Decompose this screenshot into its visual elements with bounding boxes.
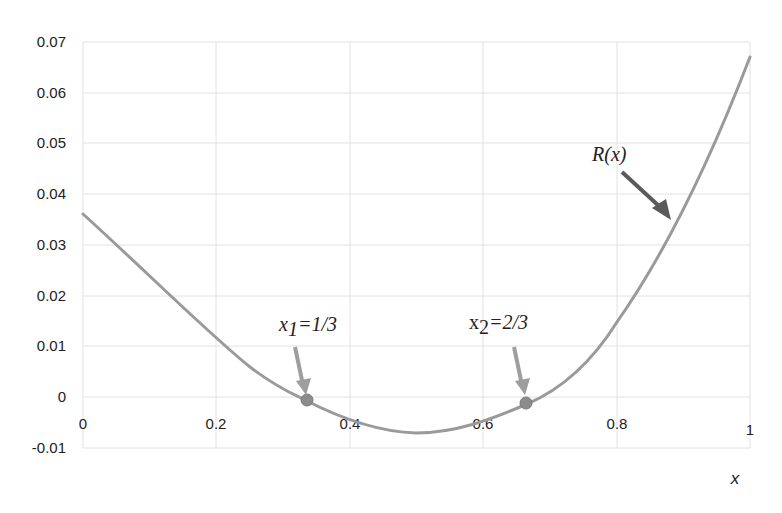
root1-var: x: [278, 313, 288, 335]
y-tick: -0.01: [32, 439, 66, 456]
chart: 0.07 0.06 0.05 0.04 0.03 0.02 0.01 0 -0.…: [0, 0, 782, 513]
x-tick: 0: [79, 415, 87, 432]
curve-arrow: [622, 172, 671, 220]
horizontal-gridlines: [83, 42, 750, 448]
y-tick: 0.07: [37, 33, 66, 50]
root-marker-1: [301, 394, 313, 406]
x-axis-labels: 0 0.2 0.4 0.6 0.8 1: [79, 415, 754, 438]
root1-arrow: [295, 347, 311, 395]
y-tick: 0.06: [37, 84, 66, 101]
x-axis-title: x: [730, 469, 740, 488]
x-tick: 0.8: [607, 415, 628, 432]
root1-value: =1/3: [298, 313, 337, 335]
x-tick: 0.2: [206, 415, 227, 432]
root2-var: x: [469, 311, 479, 333]
y-axis-labels: 0.07 0.06 0.05 0.04 0.03 0.02 0.01 0 -0.…: [32, 33, 66, 456]
y-tick: 0.02: [37, 287, 66, 304]
y-tick: 0.01: [37, 337, 66, 354]
root-marker-2: [520, 397, 532, 409]
y-tick: 0.03: [37, 236, 66, 253]
root2-sub: 2: [479, 316, 489, 338]
x-tick: 1: [746, 421, 754, 438]
y-tick: 0: [58, 388, 66, 405]
curve-label: R(x): [591, 143, 627, 166]
root1-sub: 1: [288, 318, 298, 340]
root2-value: =2/3: [489, 311, 528, 333]
y-tick: 0.05: [37, 134, 66, 151]
y-tick: 0.04: [37, 185, 66, 202]
root2-arrow: [514, 347, 530, 395]
root2-label: x2=2/3: [469, 311, 528, 338]
root1-label: x1=1/3: [278, 313, 337, 340]
